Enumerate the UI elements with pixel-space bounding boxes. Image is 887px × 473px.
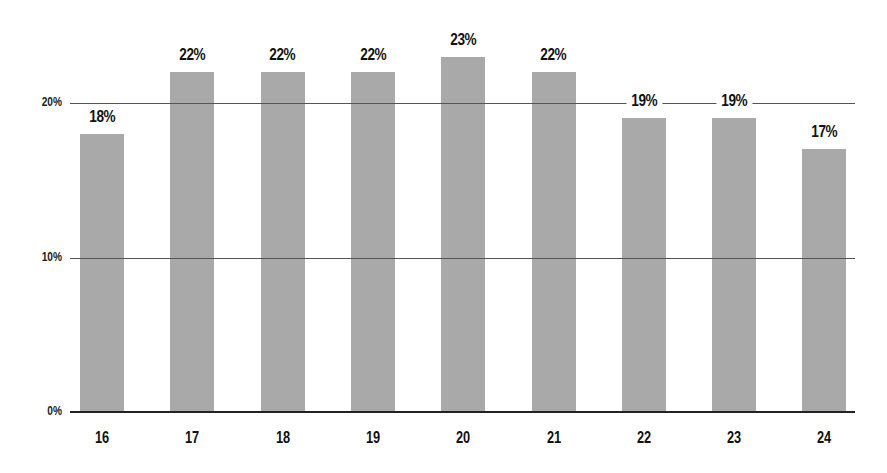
y-axis-tick-label: 10% <box>31 250 62 264</box>
value-label-text: 19% <box>716 91 752 111</box>
bar-22 <box>622 118 666 412</box>
value-label-text: 19% <box>626 91 662 111</box>
value-label: 22% <box>162 45 222 65</box>
value-label-text: 22% <box>536 45 572 65</box>
value-label: 22% <box>343 45 403 65</box>
y-axis-tick-label: 0% <box>31 404 62 418</box>
bar-21 <box>532 72 576 412</box>
bar-18 <box>261 72 305 412</box>
value-label-text: 22% <box>355 45 391 65</box>
value-label-text: 23% <box>445 30 481 50</box>
x-axis-tick-label: 19 <box>349 429 397 447</box>
gridline <box>70 258 855 259</box>
value-label: 17% <box>794 122 854 142</box>
value-label-text: 22% <box>174 45 210 65</box>
x-axis-tick-label: 17 <box>168 429 216 447</box>
value-label: 23% <box>433 30 493 50</box>
bar-23 <box>712 118 756 412</box>
x-axis-tick-label: 16 <box>78 429 126 447</box>
x-axis-tick-label: 22 <box>620 429 668 447</box>
bar-24 <box>802 149 846 412</box>
x-axis-tick-label: 24 <box>800 429 848 447</box>
bar-16 <box>80 134 124 412</box>
x-axis-tick-label: 23 <box>710 429 758 447</box>
x-axis-tick-label: 21 <box>530 429 578 447</box>
value-label-text: 18% <box>84 107 120 127</box>
x-axis-tick-label: 18 <box>259 429 307 447</box>
y-axis-tick-label: 20% <box>31 95 62 109</box>
bar-17 <box>170 72 214 412</box>
bar-20 <box>441 57 485 412</box>
value-label-text: 22% <box>265 45 301 65</box>
value-label: 19% <box>614 91 674 111</box>
value-label: 18% <box>72 107 132 127</box>
x-axis-tick-label: 20 <box>439 429 487 447</box>
value-label-text: 17% <box>807 122 843 142</box>
bar-chart: 0%10%20%18%1622%1722%1822%1923%2022%2119… <box>0 0 887 473</box>
bar-19 <box>351 72 395 412</box>
value-label: 19% <box>704 91 764 111</box>
x-axis-line <box>70 411 855 413</box>
value-label: 22% <box>253 45 313 65</box>
value-label: 22% <box>524 45 584 65</box>
